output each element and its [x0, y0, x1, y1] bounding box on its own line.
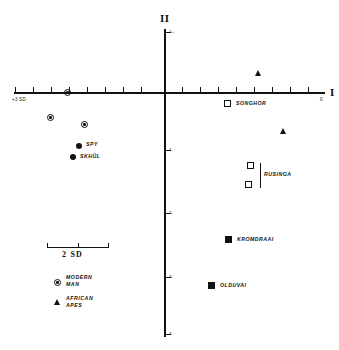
y-axis-tick-label: 4-: [169, 331, 173, 336]
x-axis-tick: [254, 87, 255, 92]
x-axis-tick: [51, 87, 52, 92]
scale-bar-cap-left: [47, 243, 48, 248]
data-point-rusinga-lower[interactable]: [245, 181, 252, 188]
x-axis-tick: [272, 87, 273, 92]
scale-bar-cap-right: [108, 243, 109, 248]
y-axis-tick-label: 1-: [169, 147, 173, 152]
x-axis-tick: [141, 87, 142, 92]
x-axis-tick: [105, 87, 106, 92]
data-point-kromdraai[interactable]: [225, 236, 232, 243]
data-point-modern-man[interactable]: [64, 89, 71, 96]
scale-bar-cap-mid: [78, 243, 79, 248]
data-point-rusinga-upper[interactable]: [247, 162, 254, 169]
data-point-olduvai[interactable]: [208, 282, 215, 289]
x-axis-tick: [15, 87, 16, 92]
data-point-spy[interactable]: [76, 143, 82, 149]
data-point-modern-man[interactable]: [47, 114, 54, 121]
x-axis-tick: [182, 87, 183, 92]
y-axis-line: [164, 29, 166, 337]
x-axis-line: [14, 92, 325, 94]
legend-label-modern-man-line2: MAN: [66, 281, 79, 288]
scatter-plot-canvas: II I +3 SD 0 1+ 1- 2- 3- 4- SPY SKHŪL SO…: [0, 0, 339, 350]
x-axis-left-end-label: +3 SD: [12, 97, 26, 102]
data-label-songhor: SONGHOR: [236, 100, 266, 106]
legend-label-african-apes-line1: AFRICAN: [66, 295, 93, 302]
data-point-songhor[interactable]: [224, 100, 231, 107]
data-label-olduvai: OLDUVAI: [220, 282, 246, 288]
x-axis-tick: [290, 87, 291, 92]
legend-label-african-apes-line2: APES: [66, 302, 82, 309]
data-point-skhul[interactable]: [70, 154, 76, 160]
x-axis-tick: [308, 87, 309, 92]
y-axis-tick-label: 2-: [169, 210, 173, 215]
data-label-rusinga: RUSINGA: [264, 171, 291, 177]
data-point-modern-man[interactable]: [81, 121, 88, 128]
x-axis-label: I: [330, 86, 335, 98]
data-label-skhul: SKHŪL: [80, 153, 100, 159]
legend-label-modern-man-line1: MODERN: [66, 274, 92, 281]
data-point-african-ape[interactable]: [255, 70, 261, 76]
rusinga-bracket: [260, 163, 261, 188]
scale-bar-label: 2 SD: [62, 250, 83, 259]
x-axis-tick: [33, 87, 34, 92]
x-axis-right-end-label: 0: [320, 97, 323, 102]
y-axis-label: II: [160, 12, 170, 24]
legend-marker-modern-man: [54, 279, 61, 286]
x-axis-tick: [218, 87, 219, 92]
data-label-spy: SPY: [86, 141, 98, 147]
data-point-african-ape[interactable]: [280, 128, 286, 134]
x-axis-tick: [200, 87, 201, 92]
data-label-kromdraai: KROMDRAAI: [237, 236, 274, 242]
x-axis-tick: [87, 87, 88, 92]
y-axis-tick-label: 3-: [169, 274, 173, 279]
x-axis-tick: [236, 87, 237, 92]
y-axis-tick-label: 1+: [169, 29, 174, 34]
legend-marker-african-apes: [54, 299, 60, 305]
x-axis-tick: [123, 87, 124, 92]
